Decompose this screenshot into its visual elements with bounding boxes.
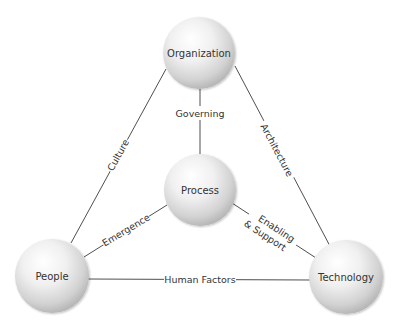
edge-human-factors: Human Factors: [88, 272, 310, 286]
node-process: Process: [164, 154, 236, 226]
organization-label: Organization: [167, 48, 231, 59]
triad-diagram: Culture Architecture Governing Emergence…: [0, 0, 398, 331]
node-people: People: [15, 239, 89, 313]
technology-label: Technology: [317, 272, 374, 283]
emergence-label: Emergence: [100, 211, 152, 248]
culture-label: Culture: [105, 137, 131, 173]
people-label: People: [35, 271, 68, 282]
process-label: Process: [181, 185, 219, 196]
architecture-label: Architecture: [258, 122, 295, 179]
human-factors-label: Human Factors: [164, 274, 235, 285]
edge-culture: Culture: [71, 69, 166, 243]
governing-label: Governing: [175, 108, 224, 119]
node-organization: Organization: [163, 17, 235, 89]
edge-governing: Governing: [172, 89, 228, 154]
edge-enabling-support: Enabling & Support: [232, 203, 316, 258]
edge-emergence: Emergence: [84, 205, 167, 257]
node-technology: Technology: [309, 240, 383, 314]
